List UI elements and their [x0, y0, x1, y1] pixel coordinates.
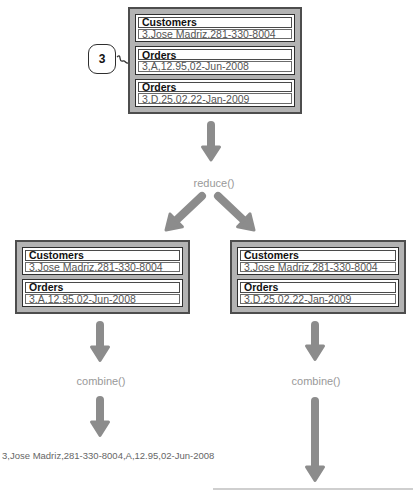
- record-header: Orders: [240, 282, 396, 293]
- record-orders-2: Orders 3,D,25.02,22-Jan-2009: [135, 79, 295, 107]
- record-value: 3,D,25.02,22-Jan-2009: [138, 93, 292, 104]
- record-orders-1: Orders 3,A,12.95,02-Jun-2008: [135, 46, 295, 74]
- right-record-box: Customers 3,Jose Madriz,281-330-8004 Ord…: [230, 240, 406, 314]
- reduce-label: reduce(): [164, 177, 264, 189]
- record-value: 3,A,12.95,02-Jun-2008: [25, 294, 180, 305]
- combine-right-label: combine(): [266, 375, 366, 387]
- record-value: 3,Jose Madriz,281-330-8004: [138, 29, 292, 40]
- record-orders: Orders 3,D,25.02,22-Jan-2009: [237, 279, 399, 307]
- record-customers: Customers 3,Jose Madriz,281-330-8004: [135, 14, 295, 42]
- record-value: 3,A,12.95,02-Jun-2008: [138, 61, 292, 72]
- record-value: 3,Jose Madriz,281-330-8004: [25, 262, 180, 273]
- record-value: 3,D,25.02,22-Jan-2009: [240, 294, 396, 305]
- arrow-right-combine-to-output: [307, 401, 324, 481]
- left-record-box: Customers 3,Jose Madriz,281-330-8004 Ord…: [15, 240, 190, 314]
- arrow-left-combine-to-output: [92, 400, 109, 436]
- record-customers: Customers 3,Jose Madriz,281-330-8004: [237, 247, 399, 275]
- record-header: Customers: [138, 17, 292, 28]
- record-value: 3,Jose Madriz,281-330-8004: [240, 262, 396, 273]
- record-header: Orders: [138, 49, 292, 60]
- key-bubble: 3: [88, 44, 116, 74]
- record-header: Orders: [25, 282, 180, 293]
- record-header: Orders: [138, 82, 292, 93]
- arrow-left-to-combine: [92, 325, 109, 361]
- record-header: Customers: [25, 250, 180, 261]
- top-record-box: Customers 3,Jose Madriz,281-330-8004 Ord…: [128, 7, 302, 114]
- record-header: Customers: [240, 250, 396, 261]
- output-line-left: 3,Jose Madriz,281-330-8004,A,12.95,02-Ju…: [2, 450, 214, 461]
- arrow-reduce-to-right: [218, 196, 254, 230]
- arrow-reduce-to-left: [166, 196, 202, 230]
- combine-left-label: combine(): [51, 375, 151, 387]
- arrow-right-to-combine: [307, 325, 324, 360]
- record-orders: Orders 3,A,12.95,02-Jun-2008: [22, 279, 183, 307]
- arrow-top-to-reduce: [203, 125, 220, 160]
- cropped-edge-line: [213, 488, 413, 490]
- record-customers: Customers 3,Jose Madriz,281-330-8004: [22, 247, 183, 275]
- key-bubble-label: 3: [99, 52, 106, 66]
- mapreduce-diagram: Customers 3,Jose Madriz,281-330-8004 Ord…: [0, 0, 413, 493]
